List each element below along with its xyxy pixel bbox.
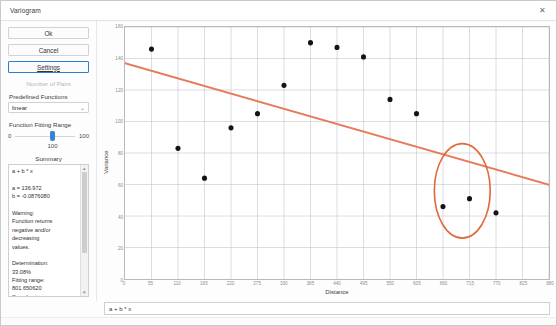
x-tick-label: 0 bbox=[123, 281, 126, 286]
control-panel: Ok Cancel Settings Number of Pairs Prede… bbox=[1, 21, 97, 301]
y-tick-label: 120 bbox=[115, 87, 123, 92]
settings-button[interactable]: Settings bbox=[8, 61, 89, 73]
fitting-range-value: 100 bbox=[8, 143, 89, 149]
scroll-up-icon[interactable]: ▴ bbox=[83, 165, 86, 172]
summary-box: a + b * x a = 136.972 b = -0.0876080 War… bbox=[8, 164, 89, 297]
summary-scrollbar[interactable]: ▴ ▾ bbox=[80, 165, 88, 296]
y-tick-label: 80 bbox=[118, 151, 123, 156]
data-point[interactable] bbox=[202, 176, 207, 181]
fitting-range-thumb[interactable] bbox=[50, 131, 55, 141]
data-point[interactable] bbox=[255, 111, 260, 116]
scroll-down-icon[interactable]: ▾ bbox=[83, 289, 86, 296]
ok-button-label: Ok bbox=[44, 30, 52, 37]
data-point[interactable] bbox=[228, 125, 233, 130]
summary-label: Summary bbox=[8, 155, 89, 162]
fitting-range-slider[interactable]: 0 100 bbox=[8, 130, 89, 142]
data-point[interactable] bbox=[440, 204, 445, 209]
data-point[interactable] bbox=[175, 146, 180, 151]
settings-button-label: Settings bbox=[37, 64, 60, 71]
x-tick-label: 220 bbox=[227, 281, 235, 286]
y-tick-label: 40 bbox=[118, 214, 123, 219]
plot-inner: 020406080100120140160 bbox=[111, 26, 550, 280]
x-tick-label: 165 bbox=[200, 281, 208, 286]
ok-button[interactable]: Ok bbox=[8, 27, 89, 39]
data-point[interactable] bbox=[387, 97, 392, 102]
scatter-plot-canvas[interactable] bbox=[124, 26, 550, 280]
data-point[interactable] bbox=[493, 210, 498, 215]
plot-column: 020406080100120140160 055110165220275330… bbox=[111, 26, 550, 298]
scrollbar-thumb[interactable] bbox=[82, 172, 87, 253]
fitting-range-min: 0 bbox=[8, 133, 11, 139]
cancel-button-label: Cancel bbox=[39, 47, 59, 54]
predefined-functions-value: linear bbox=[12, 104, 27, 111]
cancel-button[interactable]: Cancel bbox=[8, 44, 89, 56]
y-tick-label: 100 bbox=[115, 119, 123, 124]
x-tick-label: 825 bbox=[520, 281, 528, 286]
x-tick-label: 275 bbox=[253, 281, 261, 286]
x-tick-label: 330 bbox=[280, 281, 288, 286]
y-tick-label: 140 bbox=[115, 55, 123, 60]
data-point[interactable] bbox=[361, 54, 366, 59]
x-tick-label: 495 bbox=[360, 281, 368, 286]
chevron-down-icon: ⌄ bbox=[80, 104, 85, 110]
x-tick-label: 605 bbox=[413, 281, 421, 286]
plot-svg bbox=[125, 27, 549, 279]
x-tick-label: 660 bbox=[440, 281, 448, 286]
chart-panel: Variance 020406080100120140160 055110165… bbox=[97, 21, 556, 301]
x-tick-label: 110 bbox=[174, 281, 181, 286]
x-tick-label: 880 bbox=[546, 281, 554, 286]
x-axis-title: Distance bbox=[124, 289, 550, 298]
number-of-pairs-label: Number of Pairs bbox=[8, 80, 89, 87]
y-tick-label: 60 bbox=[118, 182, 123, 187]
x-tick-label: 385 bbox=[307, 281, 315, 286]
predefined-functions-select[interactable]: linear ⌄ bbox=[8, 102, 89, 113]
fitting-range-max: 100 bbox=[79, 133, 89, 139]
data-point[interactable] bbox=[149, 46, 154, 51]
data-point[interactable] bbox=[308, 40, 313, 45]
predefined-functions-label: Predefined Functions bbox=[9, 93, 89, 100]
plot-wrapper: Variance 020406080100120140160 055110165… bbox=[101, 26, 550, 298]
data-point[interactable] bbox=[334, 45, 339, 50]
y-axis-ticks: 020406080100120140160 bbox=[111, 26, 124, 280]
x-tick-label: 770 bbox=[493, 281, 501, 286]
x-tick-label: 715 bbox=[466, 281, 474, 286]
dialog-body: Ok Cancel Settings Number of Pairs Prede… bbox=[1, 21, 556, 301]
y-axis-title: Variance bbox=[101, 26, 111, 298]
data-point[interactable] bbox=[281, 83, 286, 88]
data-point[interactable] bbox=[414, 111, 419, 116]
summary-text: a + b * x a = 136.972 b = -0.0876080 War… bbox=[9, 165, 80, 296]
close-icon[interactable]: ✕ bbox=[536, 4, 549, 17]
fitting-range-label: Function Fitting Range bbox=[9, 121, 89, 128]
formula-bar[interactable]: a + b * x bbox=[104, 302, 550, 315]
x-axis-ticks: 0551101652202753303854404955506056607157… bbox=[124, 280, 550, 289]
data-point[interactable] bbox=[467, 196, 472, 201]
status-bar bbox=[1, 317, 556, 325]
x-tick-label: 440 bbox=[333, 281, 341, 286]
y-tick-label: 20 bbox=[118, 246, 123, 251]
x-tick-label: 55 bbox=[148, 281, 153, 286]
variogram-dialog: Variogram ✕ Ok Cancel Settings Number of… bbox=[0, 0, 557, 326]
title-bar: Variogram ✕ bbox=[1, 1, 556, 21]
x-tick-label: 550 bbox=[386, 281, 394, 286]
fitting-range-track[interactable] bbox=[15, 130, 75, 142]
y-tick-label: 160 bbox=[115, 24, 123, 29]
y-axis-title-text: Variance bbox=[103, 150, 109, 173]
window-title: Variogram bbox=[10, 7, 41, 14]
formula-bar-value: a + b * x bbox=[109, 306, 131, 312]
